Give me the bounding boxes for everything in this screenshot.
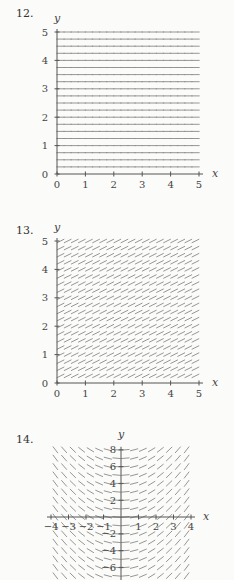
x-tick-label: 4 [167,388,173,399]
x-tick-label: 1 [135,521,141,532]
y-tick-label: 1 [42,140,48,151]
slope-segments [57,239,199,378]
y-tick-label: 1 [42,349,48,360]
x-tick-label: 3 [170,521,176,532]
x-tick-label: 1 [82,388,88,399]
y-tick-label: 8 [110,444,116,455]
x-tick-label: 4 [188,521,194,532]
x-tick-label: 3 [139,388,145,399]
y-tick-label: 2 [110,495,116,506]
x-tick-label: 2 [111,179,117,190]
slope-field-14 [47,446,195,580]
slope-field-13 [55,238,204,386]
x-tick-label: 5 [196,179,202,190]
x-tick-label: 0 [54,388,60,399]
axes [47,447,195,580]
y-tick-label: 6 [110,461,116,472]
x-axis-label: x [212,167,219,180]
y-tick-label: 2 [42,321,48,332]
x-tick-label: 4 [167,179,173,190]
y-axis-label: y [117,428,125,441]
x-axis-label: x [212,376,219,389]
x-tick-label: 2 [111,388,117,399]
x-tick-label: 1 [82,179,88,190]
y-tick-label: 3 [42,83,48,94]
x-tick-label: 5 [196,388,202,399]
y-axis-label: y [53,12,61,25]
x-tick-label: −2 [79,521,94,532]
y-tick-label: 5 [42,27,48,38]
y-tick-label: 4 [110,478,116,489]
y-tick-label: 3 [42,292,48,303]
y-tick-label: 0 [42,378,48,389]
x-tick-label: 2 [153,521,159,532]
x-axis-label: x [203,510,210,523]
x-tick-label: −4 [44,521,59,532]
y-tick-label: 2 [42,112,48,123]
slope-field-figures: 012345012345xy012345012345xy−4−3−2−11234… [0,0,234,580]
y-tick-label: 5 [42,236,48,247]
x-tick-label: 3 [139,179,145,190]
y-tick-label: 0 [42,169,48,180]
y-tick-label: 4 [42,55,48,66]
y-tick-label: −2 [101,528,116,539]
y-tick-label: 4 [42,264,48,275]
y-axis-label: y [53,221,61,234]
x-tick-label: 0 [54,179,60,190]
x-tick-label: −3 [61,521,76,532]
slope-field-12 [55,29,204,177]
y-tick-label: −4 [101,545,116,556]
y-tick-label: −6 [101,562,116,573]
slope-segments [56,32,199,167]
